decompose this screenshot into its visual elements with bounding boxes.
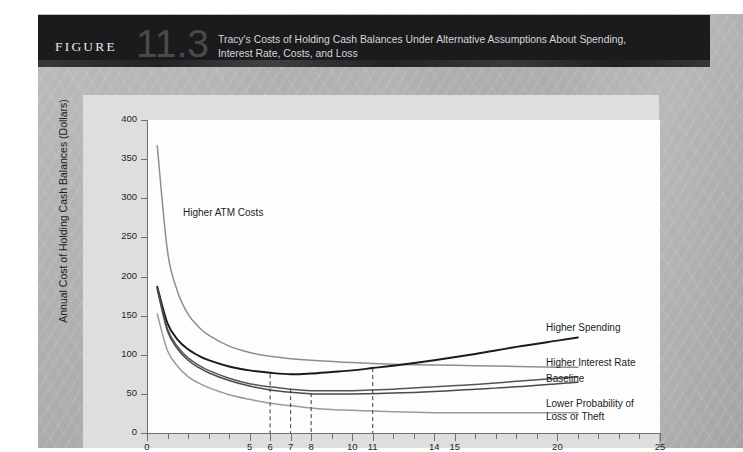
x-axis-tick-label: 0	[144, 441, 149, 452]
x-axis-tick	[496, 433, 497, 439]
y-axis-title: Annual Cost of Holding Cash Balances (Do…	[57, 96, 69, 326]
x-axis-tick	[250, 433, 251, 441]
y-axis-tick	[141, 277, 147, 278]
figure-title-line-1: Tracy's Costs of Holding Cash Balances U…	[218, 33, 626, 47]
y-axis-tick-label: 150	[121, 309, 137, 320]
x-axis-tick	[537, 433, 538, 439]
y-axis-tick-label: 200	[121, 270, 137, 281]
x-axis-tick	[516, 433, 517, 439]
x-axis-tick	[188, 433, 189, 439]
x-axis-tick-label: 15	[450, 441, 461, 452]
x-axis-tick	[209, 433, 210, 439]
figure-number: 11.3	[136, 24, 209, 63]
x-axis-tick-label: 7	[288, 441, 293, 452]
figure-title: Tracy's Costs of Holding Cash Balances U…	[218, 33, 626, 60]
y-axis-tick	[141, 120, 147, 121]
y-axis-tick-label: 0	[132, 426, 137, 437]
x-axis-tick-label: 5	[247, 441, 252, 452]
curve-label-higher-interest-rate: Higher Interest Rate	[546, 357, 636, 370]
x-axis-tick	[455, 433, 456, 441]
y-axis-tick-label: 250	[121, 230, 137, 241]
y-axis-tick	[141, 159, 147, 160]
x-axis-tick	[168, 433, 169, 439]
y-axis-tick-label: 350	[121, 152, 137, 163]
x-axis-tick-label: 11	[368, 441, 378, 452]
x-axis-tick	[414, 433, 415, 439]
x-axis-tick-label: 25	[655, 441, 666, 452]
y-axis-tick-label: 100	[121, 348, 137, 359]
x-axis-tick-label: 8	[309, 441, 314, 452]
x-axis-tick	[475, 433, 476, 439]
y-axis-tick	[141, 198, 147, 199]
y-axis-tick	[141, 237, 147, 238]
x-axis-tick	[660, 433, 661, 441]
y-axis-tick	[141, 355, 147, 356]
x-axis-tick	[619, 433, 620, 439]
x-axis-tick	[557, 433, 558, 441]
x-axis-tick	[373, 433, 374, 441]
figure-header-bar: FIGURE 11.3 Tracy's Costs of Holding Cas…	[38, 15, 710, 67]
figure-title-line-2: Interest Rate, Costs, and Loss	[218, 47, 626, 61]
x-axis-tick	[434, 433, 435, 441]
x-axis-tick	[352, 433, 353, 441]
x-axis-tick	[270, 433, 271, 441]
x-axis-tick	[147, 433, 148, 441]
y-axis-tick-label: 400	[121, 113, 137, 124]
y-axis-labels: 050100150200250300350400	[104, 0, 137, 448]
x-axis-tick	[229, 433, 230, 439]
x-axis-tick	[393, 433, 394, 439]
plot-area	[147, 120, 660, 433]
curve-label-baseline: Baseline	[546, 373, 584, 386]
x-axis-tick	[291, 433, 292, 441]
curve-label-higher-atm-costs: Higher ATM Costs	[183, 207, 263, 220]
x-axis-tick	[639, 433, 640, 439]
x-axis-tick-label: 14	[429, 441, 440, 452]
curve-label-higher-spending: Higher Spending	[546, 322, 621, 335]
x-axis-tick-label: 20	[552, 441, 563, 452]
x-axis-tick-label: 6	[267, 441, 272, 452]
x-axis-line	[147, 433, 660, 434]
x-axis-tick	[598, 433, 599, 439]
x-axis-tick	[311, 433, 312, 441]
curve-label-lower-probability-of-loss-or-theft: Lower Probability of Loss or Theft	[546, 398, 656, 423]
x-axis-tick-label: 10	[347, 441, 358, 452]
x-axis-tick	[332, 433, 333, 439]
y-axis-tick	[141, 316, 147, 317]
y-axis-tick	[141, 394, 147, 395]
x-axis-tick	[578, 433, 579, 439]
y-axis-tick-label: 50	[126, 387, 137, 398]
y-axis-line	[147, 120, 148, 434]
y-axis-tick-label: 300	[121, 191, 137, 202]
